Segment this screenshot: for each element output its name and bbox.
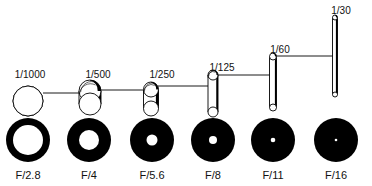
- shutter-speed-label: 1/1000: [15, 70, 46, 80]
- shutter-cylinder-1-30: [333, 15, 338, 97]
- aperture-label: F/2.8: [15, 170, 40, 181]
- aperture-label: F/11: [262, 170, 283, 181]
- shutter-speed-label: 1/125: [209, 63, 234, 73]
- shutter-speed-label: 1/60: [270, 45, 289, 55]
- aperture-label: F/5.6: [139, 170, 164, 181]
- aperture-label: F/8: [205, 170, 221, 181]
- shutter-cylinder-1-250: [144, 82, 159, 116]
- aperture-label: F/4: [81, 170, 97, 181]
- aperture-F-16: [314, 118, 358, 162]
- shutter-speed-label: 1/500: [85, 70, 110, 80]
- shutter-cylinder-1-1000: [13, 86, 43, 116]
- diagram-canvas: [0, 0, 372, 186]
- shutter-speed-label: 1/30: [331, 6, 350, 16]
- shutter-cylinder-1-500: [79, 80, 101, 115]
- exposure-diagram: 1/10001/5001/2501/1251/601/30F/2.8F/4F/5…: [0, 0, 372, 186]
- shutter-cylinder-1-125: [208, 70, 218, 117]
- aperture-F-2_8: [6, 118, 50, 162]
- aperture-F-11: [251, 118, 295, 162]
- shutter-cylinder-1-60: [270, 53, 277, 111]
- aperture-F-5_6: [130, 118, 174, 162]
- aperture-F-4: [67, 118, 111, 162]
- aperture-label: F/16: [325, 170, 347, 181]
- aperture-F-8: [191, 118, 235, 162]
- shutter-speed-label: 1/250: [149, 70, 174, 80]
